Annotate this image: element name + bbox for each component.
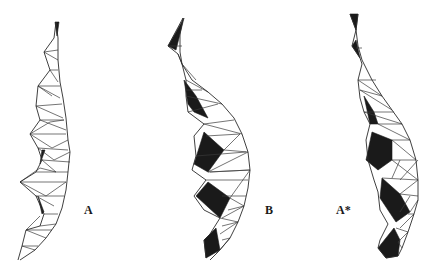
shaded-element (366, 132, 392, 170)
mesh-edge (38, 86, 52, 96)
mesh-edge (400, 180, 418, 194)
mesh-edge (224, 134, 240, 150)
mesh-edge (400, 194, 418, 196)
mesh-edge (30, 134, 52, 148)
mesh-edge (52, 140, 68, 148)
mesh-edge (410, 200, 418, 212)
mesh-edge (204, 124, 242, 134)
mesh-edge (46, 182, 66, 196)
panel-label-b: B (265, 204, 273, 216)
mesh-edge (358, 80, 382, 96)
mesh-edge (36, 104, 62, 106)
mesh-edge (26, 230, 46, 238)
mesh-edge (42, 160, 70, 162)
mesh-panel-a-star (350, 14, 418, 258)
mesh-edge (22, 246, 35, 250)
mesh-edge (30, 122, 50, 134)
mesh-edge (44, 50, 58, 52)
mesh-edge (50, 70, 58, 82)
mesh-edge (230, 198, 244, 206)
mesh-boundary (20, 22, 70, 260)
mesh-panel-b (168, 18, 250, 260)
mesh-panel-a (18, 22, 70, 260)
mesh-boundary (18, 22, 56, 260)
mesh-edge (396, 228, 408, 232)
mesh-boundary (180, 18, 250, 260)
shaded-element (168, 18, 184, 50)
mesh-edge (204, 120, 234, 124)
mesh-edge (54, 152, 70, 160)
shaded-element (204, 228, 220, 258)
panel-label-a: A (84, 204, 93, 216)
mesh-edge (392, 140, 416, 160)
shaded-element (196, 182, 230, 218)
panel-label-a-star: A* (336, 204, 351, 216)
mesh-boundary (168, 18, 220, 258)
mesh-edge (36, 106, 63, 118)
mesh-comparison-figure: A B A* (0, 0, 433, 272)
mesh-edge (210, 170, 250, 172)
mesh-edge (38, 86, 60, 98)
mesh-edge (228, 206, 244, 210)
mesh-diagrams (0, 0, 433, 272)
mesh-edge (224, 150, 248, 152)
mesh-edge (220, 218, 238, 222)
mesh-edge (206, 134, 240, 136)
mesh-edge (40, 224, 56, 226)
shaded-element (378, 228, 400, 258)
shaded-element (380, 178, 410, 222)
mesh-edge (400, 160, 418, 180)
